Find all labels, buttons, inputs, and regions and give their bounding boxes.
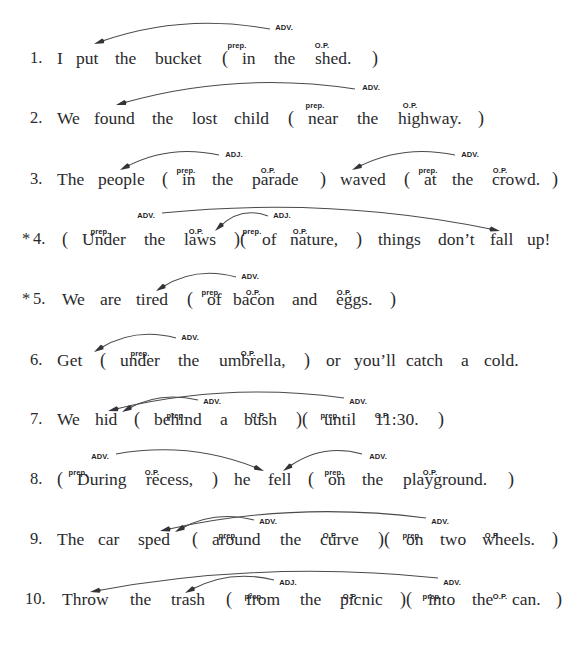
word: We [57,108,80,128]
word: up! [527,229,550,249]
word: wheels. [482,529,535,549]
pos-label-adv: ADV. [362,83,380,92]
item-number: 5. [33,289,45,309]
word: the [178,350,199,370]
pos-label-adv: ADV. [181,333,199,342]
modifier-arc [101,23,270,41]
word: the [130,589,151,609]
word: a [461,350,469,370]
word: from [246,589,280,609]
item-number: 2. [30,108,42,128]
word: car [98,529,119,549]
phrase-paren: ) [508,469,514,489]
item-number: 8. [30,469,42,489]
phrase-paren: ) [212,469,218,489]
pos-label-adv: ADV. [461,150,479,159]
sentence-text: 9.Thecarsped(aroundthecurve)(ontwowheels… [0,525,569,549]
sentence-text: 10.Throwthetrash(fromthepicnic)(intothec… [0,585,569,609]
sentence-row: ADV.prep.O.P.ADV.prep.O.P.8.(Duringreces… [0,429,569,489]
word: and [292,289,317,309]
word: catch [406,350,443,370]
word: the [362,469,383,489]
phrase-paren: ( [187,289,193,309]
word: can. [512,589,541,609]
word: trash [171,589,205,609]
word: umbrella, [219,350,286,370]
phrase-paren: ( [192,529,198,549]
phrase-paren: ) [320,169,326,189]
word: until [324,409,356,429]
word: the [472,589,493,609]
word: the [300,589,321,609]
word: picnic [340,589,383,609]
word: the [152,108,173,128]
word: under [120,350,160,370]
word: lost [192,108,217,128]
phrase-paren: ) [556,589,562,609]
item-number: 10. [25,589,46,609]
phrase-paren: ( [222,48,228,68]
item-number: 7. [30,409,42,429]
word: people [98,169,145,189]
word: hid [95,409,117,429]
phrase-paren: )( [296,409,308,429]
word: on [328,469,346,489]
word: child [234,108,269,128]
word: fall [490,229,513,249]
item-number: 1. [30,48,42,68]
word: During [77,469,127,489]
phrase-paren: ) [438,409,444,429]
pos-label-adv: ADV. [137,211,155,220]
phrase-paren: ( [62,229,68,249]
word: highway. [398,108,462,128]
word: laws [184,229,216,249]
sentence-text: 8.(Duringrecess,)hefell(ontheplayground.… [0,465,569,489]
word: The [57,169,84,189]
sentence-row: ADV.prep.O.P.6.Get(undertheumbrella,)ory… [0,310,569,370]
word: Get [57,350,82,370]
item-number: 3. [30,169,42,189]
word: recess, [146,469,193,489]
word: in [182,169,196,189]
word: in [242,48,256,68]
word: cold. [484,350,519,370]
word: waved [340,169,386,189]
word: parade [252,169,299,189]
word: of [262,229,277,249]
word: he [234,469,251,489]
word: near [308,108,338,128]
word: tired [136,289,168,309]
phrase-paren: ( [308,469,314,489]
word: two [440,529,466,549]
word: don’t [438,229,475,249]
phrase-paren: ) [356,229,362,249]
word: Throw [62,589,109,609]
phrase-paren: ( [100,350,106,370]
phrase-paren: )( [378,529,390,549]
modifier-arc [123,83,355,104]
word: 11:30. [375,409,419,429]
word: found [94,108,135,128]
word: playground. [403,469,487,489]
word: bucket [155,48,202,68]
word: behind [154,409,202,429]
phrase-paren: )( [234,229,246,249]
word: the [452,169,473,189]
word: into [428,589,455,609]
phrase-paren: )( [400,589,412,609]
phrase-paren: ( [134,409,140,429]
word: things [378,229,421,249]
word: are [100,289,121,309]
sentence-text: *4.(Underthelaws)(ofnature,)thingsdon’tf… [0,225,569,249]
word: put [76,48,98,68]
word: on [406,529,424,549]
item-number: 6. [30,350,42,370]
pos-label-adj: ADJ. [225,150,243,159]
word: We [62,289,85,309]
asterisk-marker: * [22,289,30,309]
word: shed. [315,48,351,68]
word: of [207,289,222,309]
word: fell [268,469,291,489]
phrase-paren: ) [304,350,310,370]
word: bacon [233,289,275,309]
